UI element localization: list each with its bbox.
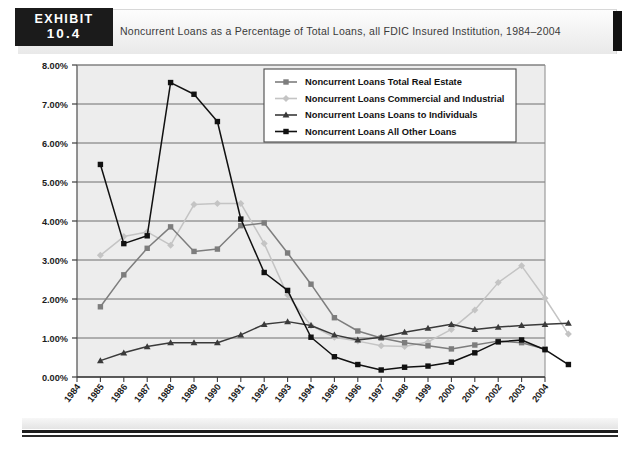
data-point <box>238 216 243 221</box>
data-point <box>402 365 407 370</box>
data-point <box>98 304 103 309</box>
y-tick-label: 5.00% <box>42 178 68 188</box>
data-point <box>379 367 384 372</box>
x-tick-label: 2000 <box>437 382 457 404</box>
data-point <box>191 249 196 254</box>
data-point <box>191 92 196 97</box>
footer-rule-top <box>22 430 618 433</box>
x-tick-label: 2001 <box>460 382 480 404</box>
data-point <box>283 79 288 84</box>
data-point <box>425 343 430 348</box>
x-tick-label: 2002 <box>483 382 503 404</box>
data-point <box>472 350 477 355</box>
data-point <box>215 119 220 124</box>
x-tick-label: 1999 <box>413 382 433 404</box>
data-point <box>168 80 173 85</box>
data-point <box>262 270 267 275</box>
y-tick-label: 6.00% <box>42 139 68 149</box>
x-tick-label: 1991 <box>226 382 246 404</box>
data-point <box>121 272 126 277</box>
x-tick-label: 1988 <box>156 382 176 404</box>
x-tick-label: 1994 <box>296 381 317 404</box>
x-tick-label: 1996 <box>343 382 363 404</box>
data-point <box>355 328 360 333</box>
y-tick-label: 4.00% <box>42 217 68 227</box>
legend-label: Noncurrent Loans Loans to Individuals <box>305 110 478 120</box>
data-point <box>308 281 313 286</box>
page-title: Noncurrent Loans as a Percentage of Tota… <box>120 25 590 37</box>
data-point <box>332 315 337 320</box>
corner-accent-bar <box>613 11 622 51</box>
x-tick-label: 1990 <box>203 382 223 404</box>
data-point <box>449 346 454 351</box>
data-point <box>145 233 150 238</box>
y-tick-label: 2.00% <box>42 295 68 305</box>
exhibit-word: EXHIBIT <box>34 12 93 26</box>
data-point <box>308 335 313 340</box>
line-chart: 0.00%1.00%2.00%3.00%4.00%5.00%6.00%7.00%… <box>0 52 635 412</box>
y-tick-label: 7.00% <box>42 100 68 110</box>
chart-area: 0.00%1.00%2.00%3.00%4.00%5.00%6.00%7.00%… <box>0 52 635 412</box>
chart-legend: Noncurrent Loans Total Real EstateNoncur… <box>264 69 516 142</box>
data-point <box>168 224 173 229</box>
data-point <box>472 342 477 347</box>
data-point <box>496 339 501 344</box>
data-point <box>402 340 407 345</box>
x-tick-label: 1989 <box>179 382 199 404</box>
footer-shade <box>22 418 618 429</box>
data-point <box>542 347 547 352</box>
data-point <box>332 354 337 359</box>
y-tick-label: 8.00% <box>42 61 68 71</box>
data-point <box>262 220 267 225</box>
x-tick-label: 1993 <box>273 382 293 404</box>
data-point <box>566 362 571 367</box>
x-tick-label: 1984 <box>62 381 83 404</box>
data-point <box>285 288 290 293</box>
data-point <box>355 362 360 367</box>
data-point <box>215 246 220 251</box>
legend-label: Noncurrent Loans Commercial and Industri… <box>305 94 504 104</box>
legend-label: Noncurrent Loans All Other Loans <box>305 127 457 137</box>
x-tick-label: 1992 <box>249 382 269 404</box>
y-tick-label: 1.00% <box>42 334 68 344</box>
data-point <box>449 359 454 364</box>
x-tick-label: 1997 <box>366 382 386 404</box>
data-point <box>425 363 430 368</box>
legend-label: Noncurrent Loans Total Real Estate <box>305 77 462 87</box>
x-tick-label: 1995 <box>320 382 340 404</box>
data-point <box>519 337 524 342</box>
y-tick-label: 3.00% <box>42 256 68 266</box>
x-tick-label: 1998 <box>390 382 410 404</box>
x-tick-label: 1987 <box>132 382 152 404</box>
x-tick-label: 2004 <box>530 381 551 404</box>
data-point <box>98 162 103 167</box>
exhibit-number: 10.4 <box>47 26 81 42</box>
footer-rule-bottom <box>22 435 618 437</box>
data-point <box>121 241 126 246</box>
data-point <box>283 129 288 134</box>
exhibit-label-box: EXHIBIT 10.4 <box>15 8 113 46</box>
data-point <box>285 250 290 255</box>
x-tick-label: 1985 <box>86 382 106 404</box>
x-tick-label: 1986 <box>109 382 129 404</box>
data-point <box>145 246 150 251</box>
x-tick-label: 2003 <box>507 382 527 404</box>
exhibit-page: EXHIBIT 10.4 Noncurrent Loans as a Perce… <box>0 0 635 452</box>
y-tick-label: 0.00% <box>42 373 68 383</box>
